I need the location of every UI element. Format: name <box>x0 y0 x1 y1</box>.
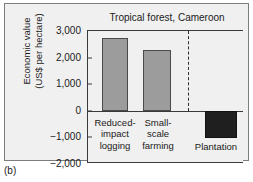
category-label: Small-scalefarming <box>132 117 184 152</box>
y-tick-mark <box>88 137 92 138</box>
y-tick-label: 1,000 <box>35 78 81 89</box>
figure-caption: (b) <box>4 165 16 176</box>
y-axis-title-line-1: Economic value <box>21 0 33 116</box>
category-divider-line <box>188 31 189 111</box>
bar <box>102 38 128 110</box>
category-label-line: Plantation <box>188 141 244 153</box>
y-tick-label: −1,000 <box>35 131 81 142</box>
y-tick-mark <box>88 110 92 111</box>
category-label-line: Small- <box>132 117 184 129</box>
chart-title: Tropical forest, Cameroon <box>89 12 245 23</box>
bar <box>143 50 171 111</box>
y-tick-label: −2,000 <box>35 158 81 169</box>
y-tick-mark <box>88 84 92 85</box>
category-label-line: scale <box>132 128 184 140</box>
y-tick-mark <box>88 57 92 58</box>
y-tick-label: 3,000 <box>35 25 81 36</box>
plot-area: Reduced-impactloggingSmall-scalefarmingP… <box>87 30 243 163</box>
y-tick-label: 2,000 <box>35 51 81 62</box>
y-axis-tick-labels: 3,0002,0001,0000−1,000−2,000 <box>39 30 85 163</box>
bar <box>205 111 237 139</box>
category-label: Plantation <box>188 141 244 153</box>
category-label-line: farming <box>132 140 184 152</box>
y-tick-label: 0 <box>35 104 81 115</box>
figure-panel: Tropical forest, Cameroon Economic value… <box>4 3 249 161</box>
